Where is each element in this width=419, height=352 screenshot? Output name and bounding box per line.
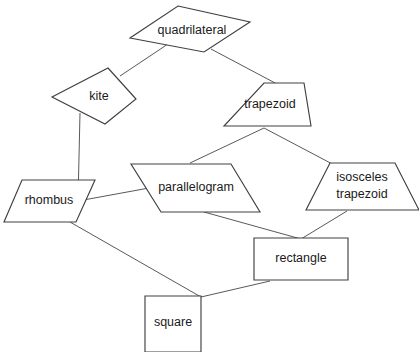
- quadrilateral-hierarchy-diagram: quadrilateral kite trapezoid parallelogr…: [0, 0, 419, 352]
- edge-quadrilateral-kite: [120, 44, 168, 76]
- node-quadrilateral[interactable]: quadrilateral: [130, 6, 250, 52]
- isosceles-trapezoid-label-line2: trapezoid: [336, 187, 387, 201]
- edge-trapezoid-parallelogram: [190, 128, 264, 163]
- diagram-canvas: quadrilateral kite trapezoid parallelogr…: [0, 0, 419, 352]
- edge-rhombus-square: [70, 222, 201, 297]
- rectangle-label: rectangle: [275, 251, 326, 265]
- edge-quadrilateral-trapezoid: [211, 49, 277, 84]
- edge-parallelogram-rectangle: [204, 212, 301, 239]
- parallelogram-label: parallelogram: [158, 180, 234, 194]
- node-kite[interactable]: kite: [52, 68, 136, 124]
- square-label: square: [154, 315, 192, 329]
- trapezoid-label: trapezoid: [244, 97, 295, 111]
- kite-label: kite: [89, 89, 109, 103]
- node-rhombus[interactable]: rhombus: [4, 180, 95, 222]
- quadrilateral-label: quadrilateral: [158, 23, 227, 37]
- node-trapezoid[interactable]: trapezoid: [224, 83, 311, 126]
- edge-trapezoid-isosceles-trapezoid: [264, 128, 338, 167]
- node-rectangle[interactable]: rectangle: [254, 238, 348, 280]
- node-square[interactable]: square: [145, 296, 201, 352]
- edge-rectangle-square: [201, 281, 270, 297]
- isosceles-trapezoid-label-line1: isosceles: [336, 170, 387, 184]
- rhombus-label: rhombus: [25, 193, 74, 207]
- edge-isosceles-trapezoid-rectangle: [301, 211, 347, 239]
- node-parallelogram[interactable]: parallelogram: [131, 164, 260, 212]
- node-isosceles-trapezoid[interactable]: isosceles trapezoid: [306, 163, 419, 210]
